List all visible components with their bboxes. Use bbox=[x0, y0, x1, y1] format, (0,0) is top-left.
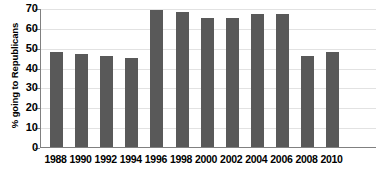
bar bbox=[150, 10, 163, 147]
y-axis-label: 60 bbox=[0, 23, 38, 34]
y-axis-label: 30 bbox=[0, 82, 38, 93]
y-axis-label: 10 bbox=[0, 122, 38, 133]
y-axis-label: 20 bbox=[0, 102, 38, 113]
bar bbox=[251, 14, 264, 147]
bar bbox=[50, 52, 63, 147]
y-axis-label: 70 bbox=[0, 3, 38, 14]
bar bbox=[176, 12, 189, 147]
bar bbox=[75, 54, 88, 147]
y-axis-label: 40 bbox=[0, 63, 38, 74]
bar bbox=[276, 14, 289, 147]
bar bbox=[100, 56, 113, 147]
plot-area bbox=[40, 9, 376, 148]
bar bbox=[226, 18, 239, 147]
bar bbox=[125, 58, 138, 147]
y-axis-label: 0 bbox=[0, 142, 38, 153]
y-axis-label: 50 bbox=[0, 43, 38, 54]
x-axis-label: 2010 bbox=[312, 154, 352, 165]
bar bbox=[301, 56, 314, 147]
bar-chart: % going to Republicans 010203040506070 1… bbox=[0, 0, 380, 178]
bar bbox=[201, 18, 214, 147]
bar bbox=[326, 52, 339, 147]
gridline bbox=[41, 9, 376, 10]
